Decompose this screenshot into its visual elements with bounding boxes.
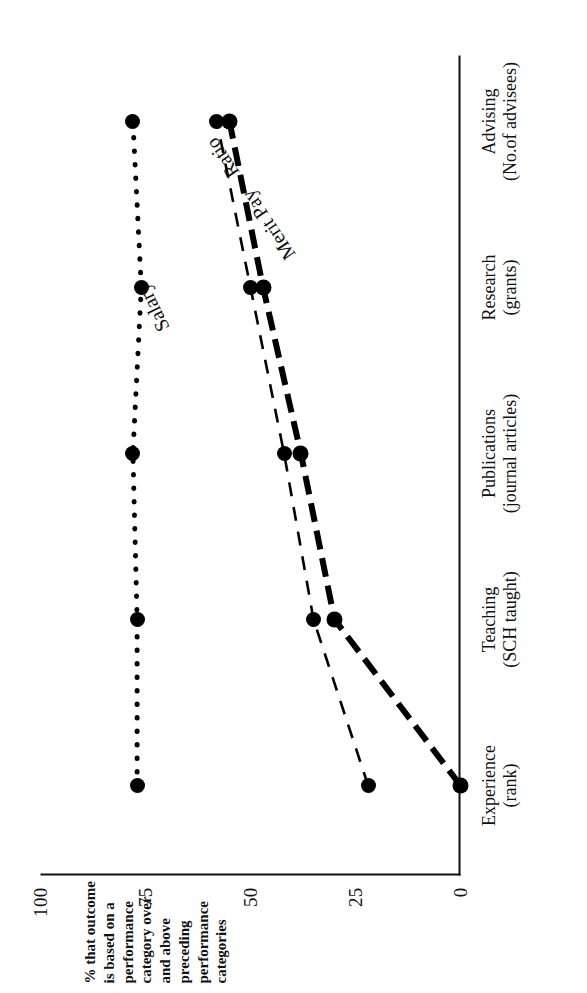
y-tick-100: 100 <box>29 887 51 916</box>
marker-merit-pay-0 <box>360 778 375 793</box>
marker-salary-2 <box>125 446 140 461</box>
x-cat-line2: (rank) <box>499 745 520 826</box>
marker-salary-4 <box>125 114 140 129</box>
x-category-experience: Experience (rank) <box>478 745 520 826</box>
x-category-research: Research (grants) <box>478 254 520 320</box>
plot-area: 0 25 50 75 100 % that outcome is based o… <box>40 55 460 875</box>
marker-salary-1 <box>129 612 144 627</box>
y-tick-0: 0 <box>449 887 471 897</box>
x-cat-line1: Experience <box>478 745 498 826</box>
marker-ratio-3 <box>255 279 271 295</box>
x-category-advising: Advising (No.of advisees) <box>478 62 520 181</box>
marker-ratio-2 <box>292 445 308 461</box>
marker-merit-pay-1 <box>306 612 321 627</box>
x-category-teaching: Teaching (SCH taught) <box>478 571 520 668</box>
x-cat-line2: (SCH taught) <box>499 571 520 668</box>
x-cat-line2: (grants) <box>499 254 520 320</box>
marker-ratio-1 <box>326 611 342 627</box>
x-cat-line1: Teaching <box>478 586 498 652</box>
x-cat-line2: (No.of advisees) <box>499 62 520 181</box>
x-cat-line2: (journal articles) <box>499 393 520 512</box>
marker-merit-pay-2 <box>276 446 291 461</box>
marker-ratio-4 <box>221 113 237 129</box>
x-category-publications: Publications (journal articles) <box>478 393 520 512</box>
marker-salary-0 <box>129 778 144 793</box>
y-tick-50: 50 <box>239 887 261 907</box>
x-cat-line1: Publications <box>478 409 498 498</box>
rotated-chart-canvas: 0 25 50 75 100 % that outcome is based o… <box>0 0 587 993</box>
x-cat-line1: Research <box>478 254 498 320</box>
y-tick-25: 25 <box>344 887 366 907</box>
series-lines <box>40 55 460 875</box>
marker-ratio-0 <box>452 777 468 793</box>
figure-root: 0 25 50 75 100 % that outcome is based o… <box>0 0 587 993</box>
x-cat-line1: Advising <box>478 88 498 154</box>
